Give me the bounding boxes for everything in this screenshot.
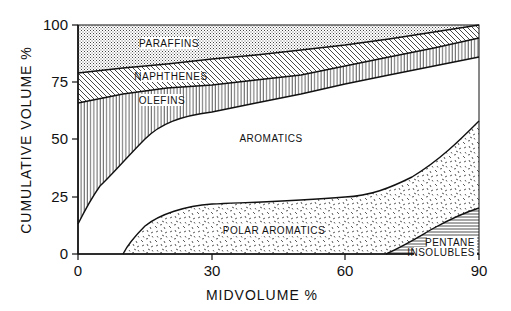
label-insolubles: INSOLUBLES <box>407 247 475 258</box>
x-tick-90: 90 <box>471 262 488 279</box>
y-tick-100: 100 <box>43 16 68 33</box>
x-axis-label: MIDVOLUME % <box>206 287 318 303</box>
x-tick-60: 60 <box>337 262 354 279</box>
y-tick-25: 25 <box>51 188 68 205</box>
label-polar-aromatics: POLAR AROMATICS <box>223 225 325 236</box>
label-aromatics: AROMATICS <box>239 133 302 144</box>
y-tick-50: 50 <box>51 130 68 147</box>
y-tick-0: 0 <box>60 245 68 262</box>
y-tick-75: 75 <box>51 73 68 90</box>
label-paraffins: PARAFFINS <box>139 38 199 49</box>
x-tick-0: 0 <box>74 262 82 279</box>
chart: 100 75 50 25 0 0 30 60 90 MIDVOLUME % CU… <box>0 0 511 311</box>
label-naphthenes: NAPHTHENES <box>134 71 207 82</box>
x-tick-30: 30 <box>204 262 221 279</box>
label-olefins: OLEFINS <box>139 95 185 106</box>
y-axis-label: CUMULATIVE VOLUME % <box>18 46 34 234</box>
